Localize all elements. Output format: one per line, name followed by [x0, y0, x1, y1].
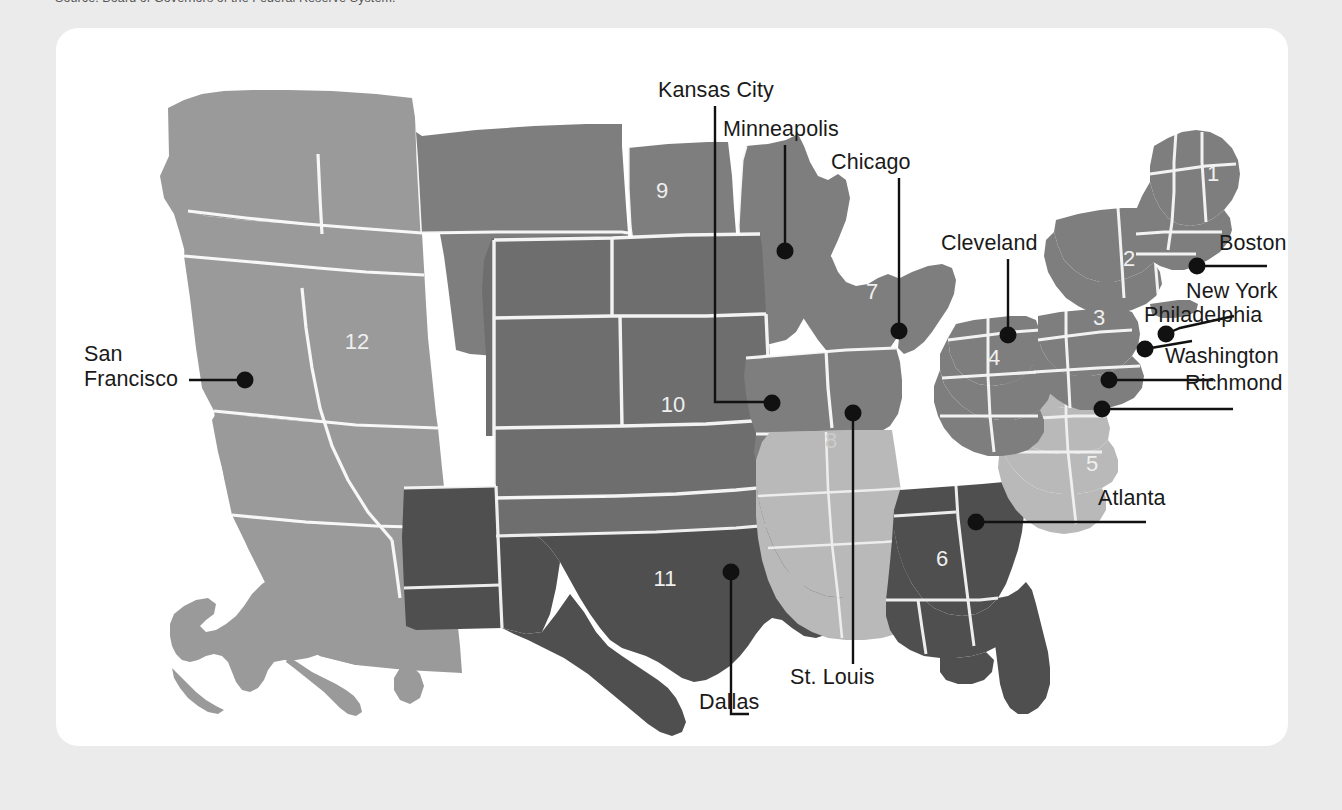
district-number-12: 12 [345, 329, 369, 354]
district-number-10: 10 [661, 392, 685, 417]
label-richmond: Richmond [1185, 371, 1283, 396]
label-san-francisco-line2: Francisco [84, 367, 178, 392]
label-washington: Washington [1165, 344, 1279, 369]
dot-san-francisco [237, 372, 254, 389]
label-minneapolis: Minneapolis [723, 117, 839, 142]
dot-new-york [1158, 326, 1175, 343]
dot-dallas [723, 564, 740, 581]
federal-reserve-district-map-card: 1 2 3 4 5 6 7 8 9 10 11 12 Kansas City M… [56, 28, 1288, 746]
district-number-2: 2 [1123, 246, 1135, 271]
source-note: Source: Board of Governors of the Federa… [55, 0, 396, 5]
dot-boston [1189, 258, 1206, 275]
district-number-9: 9 [656, 178, 668, 203]
dot-philadelphia [1137, 341, 1154, 358]
dot-kansas-city [764, 395, 781, 412]
district-number-1: 1 [1207, 161, 1219, 186]
dot-cleveland [1000, 327, 1017, 344]
dot-washington [1101, 372, 1118, 389]
label-kansas-city: Kansas City [658, 78, 774, 103]
district-number-6: 6 [936, 546, 948, 571]
alaska-inset [170, 564, 362, 716]
label-atlanta: Atlanta [1098, 486, 1166, 511]
label-new-york: New York [1186, 279, 1278, 304]
label-chicago: Chicago [831, 150, 911, 175]
label-cleveland: Cleveland [941, 231, 1038, 256]
label-san-francisco: San Francisco [84, 342, 178, 393]
label-boston: Boston [1219, 231, 1287, 256]
district-number-5: 5 [1086, 451, 1098, 476]
label-san-francisco-line1: San [84, 342, 178, 367]
dot-minneapolis [777, 243, 794, 260]
dot-richmond [1094, 401, 1111, 418]
label-dallas: Dallas [699, 690, 759, 715]
dot-atlanta [968, 514, 985, 531]
page-root: Source: Board of Governors of the Federa… [0, 0, 1342, 810]
label-st-louis: St. Louis [790, 665, 875, 690]
district-number-8: 8 [825, 428, 837, 453]
district-number-3: 3 [1093, 305, 1105, 330]
district-number-11: 11 [654, 566, 677, 591]
dot-st-louis [845, 405, 862, 422]
dot-chicago [891, 323, 908, 340]
label-philadelphia: Philadelphia [1144, 303, 1262, 328]
district-number-4: 4 [988, 345, 1000, 370]
district-number-7: 7 [866, 279, 878, 304]
us-federal-reserve-districts-map: 1 2 3 4 5 6 7 8 9 10 11 12 [56, 28, 1288, 746]
district-region-4 [934, 316, 1052, 456]
